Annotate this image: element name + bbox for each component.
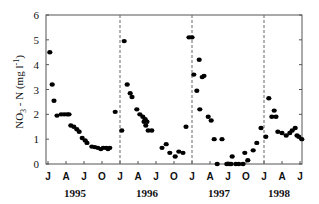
year-labels: 1995199619971998: [64, 187, 291, 199]
y-tick-label: 5: [34, 34, 40, 46]
data-point: [134, 107, 139, 111]
x-tick-label: A: [62, 171, 69, 182]
data-point: [242, 151, 247, 155]
data-point: [129, 95, 134, 99]
data-point: [245, 158, 250, 162]
x-tick-label: J: [81, 171, 87, 182]
data-point: [258, 126, 263, 130]
data-point: [209, 118, 214, 122]
data-point: [167, 151, 172, 155]
x-tick-label: J: [45, 171, 51, 182]
y-axis-label: NO3 - N (mg l-1): [12, 55, 28, 129]
data-point: [191, 72, 196, 76]
data-point: [219, 137, 224, 141]
data-point: [189, 35, 194, 39]
nitrate-scatter-chart: 0123456 JAJOJAJOJAJOJAJ 1995199619971998…: [0, 0, 319, 204]
plot-area: 0123456 JAJOJAJOJAJOJAJ: [34, 9, 305, 182]
data-point: [212, 137, 217, 141]
data-point: [125, 82, 130, 86]
x-tick-label: J: [117, 171, 123, 182]
data-point: [201, 74, 206, 78]
data-point: [149, 128, 154, 132]
data-point: [197, 58, 202, 62]
data-point: [47, 50, 52, 54]
data-point: [113, 110, 118, 114]
data-point: [206, 115, 211, 119]
y-tick-label: 0: [34, 158, 40, 170]
year-label: 1997: [208, 187, 231, 199]
x-tick-label: J: [225, 171, 231, 182]
data-point: [119, 128, 124, 132]
x-tick-label: J: [189, 171, 195, 182]
data-points: [47, 35, 304, 166]
x-tick-label: A: [278, 171, 285, 182]
data-point: [293, 126, 298, 130]
year-label: 1995: [64, 187, 87, 199]
data-point: [197, 107, 202, 111]
y-tick-label: 3: [34, 84, 40, 96]
y-tick-label: 4: [34, 59, 40, 71]
data-point: [77, 130, 82, 134]
data-point: [228, 162, 233, 166]
x-tick-label: J: [297, 171, 303, 182]
data-point: [215, 162, 220, 166]
x-tick-label: J: [261, 171, 267, 182]
x-tick-label: O: [242, 171, 250, 182]
data-point: [180, 151, 185, 155]
y-tick-label: 1: [34, 133, 40, 145]
data-point: [230, 154, 235, 158]
data-point: [122, 39, 127, 43]
data-point: [66, 112, 71, 116]
x-tick-label: J: [153, 171, 159, 182]
data-point: [164, 142, 169, 146]
data-point: [84, 141, 89, 145]
data-point: [107, 146, 112, 150]
y-tick-label: 2: [34, 108, 40, 120]
data-point: [254, 141, 259, 145]
x-tick-label: A: [134, 171, 141, 182]
y-tick-label: 6: [34, 9, 40, 21]
data-point: [251, 148, 256, 152]
data-point: [183, 125, 188, 129]
data-point: [194, 89, 199, 93]
data-point: [266, 96, 271, 100]
data-point: [299, 137, 304, 141]
data-point: [159, 146, 164, 150]
data-point: [263, 134, 268, 138]
data-point: [144, 120, 149, 124]
data-point: [273, 115, 278, 119]
year-label: 1996: [136, 187, 159, 199]
data-point: [143, 123, 148, 127]
data-point: [51, 98, 56, 102]
data-point: [50, 82, 55, 86]
year-label: 1998: [268, 187, 291, 199]
x-tick-label: O: [98, 171, 106, 182]
x-tick-label: A: [206, 171, 213, 182]
x-tick-label: O: [170, 171, 178, 182]
data-point: [272, 108, 277, 112]
data-point: [173, 154, 178, 158]
data-point: [240, 162, 245, 166]
data-point: [279, 131, 284, 135]
